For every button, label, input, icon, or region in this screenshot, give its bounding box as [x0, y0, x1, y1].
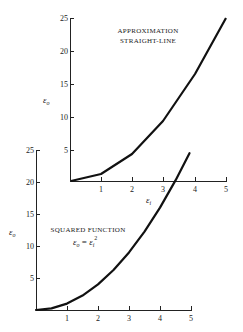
upper-chart: 25 20 15 10 5 1 2 3 4 5 APPROXIMATION ST… — [43, 14, 228, 206]
svg-text:15: 15 — [60, 80, 68, 89]
upper-title-line1: APPROXIMATION — [117, 27, 178, 35]
svg-text:1: 1 — [65, 314, 69, 323]
svg-text:2: 2 — [96, 314, 100, 323]
svg-text:4: 4 — [158, 314, 162, 323]
svg-text:20: 20 — [60, 47, 68, 56]
upper-y-tick-labels: 25 20 15 10 5 — [60, 14, 68, 155]
upper-title-line2: STRAIGHT-LINE — [120, 37, 176, 45]
lower-equation: εo = εi2 — [73, 235, 97, 248]
upper-x-axis-label: εi — [146, 195, 152, 206]
svg-text:5: 5 — [224, 185, 228, 194]
lower-title: SQUARED FUNCTION — [51, 226, 126, 234]
svg-text:5: 5 — [30, 274, 34, 283]
lower-y-tick-labels: 25 20 15 10 5 — [26, 146, 34, 283]
svg-text:10: 10 — [60, 113, 68, 122]
svg-text:1: 1 — [99, 185, 103, 194]
lower-y-axis-label: εo — [9, 227, 16, 238]
svg-text:4: 4 — [193, 185, 197, 194]
svg-text:15: 15 — [26, 210, 34, 219]
svg-text:3: 3 — [161, 185, 165, 194]
svg-text:5: 5 — [189, 314, 193, 323]
svg-text:25: 25 — [60, 14, 68, 23]
svg-text:5: 5 — [64, 146, 68, 155]
svg-text:20: 20 — [26, 178, 34, 187]
svg-text:10: 10 — [26, 242, 34, 251]
lower-chart: 25 20 15 10 5 1 2 3 4 5 SQUARED FUNCTION… — [9, 146, 193, 323]
lower-x-tick-labels: 1 2 3 4 5 — [65, 314, 193, 323]
svg-text:3: 3 — [127, 314, 131, 323]
svg-text:2: 2 — [130, 185, 134, 194]
upper-x-tick-labels: 1 2 3 4 5 — [99, 185, 228, 194]
chart-canvas: 25 20 15 10 5 1 2 3 4 5 APPROXIMATION ST… — [0, 0, 243, 332]
upper-y-axis-label: εo — [43, 95, 50, 106]
svg-text:25: 25 — [26, 146, 34, 155]
